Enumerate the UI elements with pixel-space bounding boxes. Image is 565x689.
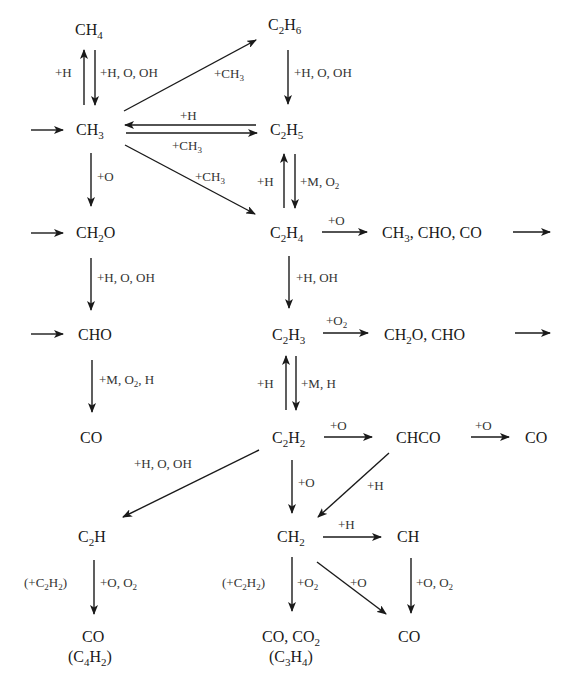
label-c2h2-right: +O — [330, 418, 347, 433]
label-c2h4-down: +H, OH — [296, 270, 338, 285]
label-ch2-down-right: +O2 — [297, 575, 318, 592]
label-ch2o-down: +H, O, OH — [97, 270, 155, 285]
species-c2h4-products: CH3, CHO, CO — [382, 224, 482, 244]
species-c2h3-products: CH2O, CHO — [384, 326, 465, 346]
reaction-mechanism-diagram: CH4 C2H6 CH3 C2H5 CH2O C2H4 CH3, CHO, CO… — [0, 0, 565, 689]
label-c2h5-to-ch3: +H — [180, 108, 197, 123]
species-c2h: C2H — [78, 528, 106, 548]
label-c2h-down-right: +O, O2 — [100, 575, 137, 592]
label-ch2-to-co: +O — [350, 575, 367, 590]
species-ch2: CH2 — [277, 528, 305, 548]
species-chco: CHCO — [396, 429, 440, 446]
species-co-right: CO — [525, 429, 547, 446]
species-co-co2: CO, CO2 — [262, 628, 320, 648]
label-c2h-down-left: (+C2H2) — [24, 575, 67, 592]
species-ch2o: CH2O — [76, 224, 115, 244]
label-ch3-to-c2h6: +CH3 — [214, 66, 244, 83]
label-c2h3-up: +H — [257, 376, 274, 391]
species-co-bottom-right: CO — [398, 628, 420, 645]
label-cho-down: +M, O2, H — [99, 372, 154, 389]
label-ch3-to-c2h5: +CH3 — [172, 138, 202, 155]
label-ch2-right: +H — [338, 517, 355, 532]
species-c4h2: (C4H2) — [68, 648, 112, 668]
label-c2h2-to-c2h: +H, O, OH — [134, 456, 192, 471]
species-ch: CH — [397, 528, 420, 545]
label-c2h2-down: +O — [298, 475, 315, 490]
species-co-bottom-left: CO — [82, 628, 104, 645]
species-c2h6: C2H6 — [268, 16, 302, 36]
label-c2h3-right: +O2 — [326, 313, 347, 330]
label-ch2-down-left: (+C2H2) — [222, 575, 265, 592]
label-ch4-up: +H — [55, 65, 72, 80]
label-chco-to-ch2: +H — [367, 478, 384, 493]
species-c2h5: C2H5 — [270, 121, 304, 141]
species-c3h4: (C3H4) — [269, 648, 313, 668]
species-ch4: CH4 — [75, 21, 103, 41]
arrow-ch3-to-c2h4 — [125, 145, 255, 214]
label-c2h5-up: +H — [257, 174, 274, 189]
species-ch3: CH3 — [76, 121, 104, 141]
species-c2h2: C2H2 — [272, 429, 305, 449]
species-c2h3: C2H3 — [272, 326, 306, 346]
label-chco-right: +O — [475, 418, 492, 433]
species-co-left: CO — [80, 429, 102, 446]
label-ch4-down: +H, O, OH — [100, 65, 158, 80]
label-ch-down: +O, O2 — [416, 575, 453, 592]
species-cho: CHO — [78, 326, 112, 343]
label-c2h5-down: +M, O2 — [300, 174, 339, 191]
label-c2h3-down: +M, H — [301, 376, 336, 391]
label-ch3-to-c2h4: +CH3 — [195, 169, 225, 186]
label-c2h6-down: +H, O, OH — [294, 65, 352, 80]
label-ch3-down: +O — [97, 169, 114, 184]
species-c2h4: C2H4 — [270, 224, 304, 244]
label-c2h4-right: +O — [328, 213, 345, 228]
